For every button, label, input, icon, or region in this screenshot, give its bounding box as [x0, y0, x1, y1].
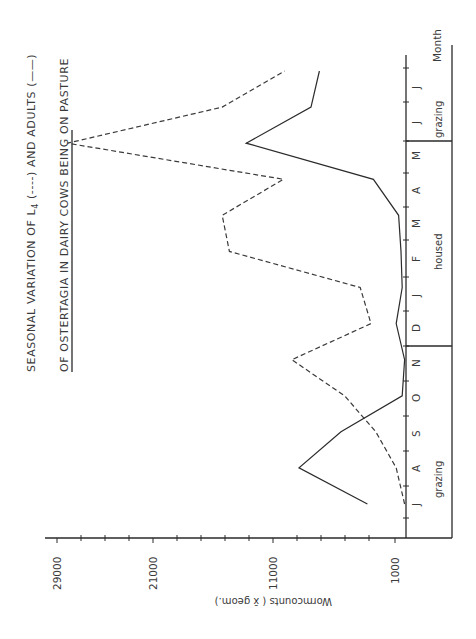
- svg-text:grazing: grazing: [433, 101, 444, 138]
- month-label: D: [410, 324, 422, 332]
- wormcount-chart: SEASONAL VARIATION OF L4 (----) AND ADUL…: [0, 0, 476, 639]
- month-label: J: [410, 294, 422, 298]
- chart-subtitle: OF OSTERTAGIA IN DAIRY COWS BEING ON PAS…: [58, 58, 71, 372]
- month-label: F: [410, 256, 422, 262]
- value-tick-label-11000: 11000: [267, 557, 279, 590]
- svg-text:Month: Month: [431, 29, 443, 62]
- month-label: A: [410, 186, 422, 194]
- value-tick-label-21000: 21000: [147, 557, 159, 590]
- title-line1-rest: (----) AND ADULTS (——): [25, 54, 38, 203]
- value-tick-label-1000: 1000: [389, 557, 401, 584]
- month-label: M: [410, 219, 422, 228]
- svg-text:Wormcounts ( x̄ geom.): Wormcounts ( x̄ geom.): [215, 596, 332, 607]
- series-l4-dashed: [67, 71, 404, 504]
- month-axis-title: Month: [431, 29, 443, 62]
- month-label: O: [410, 394, 422, 402]
- month-label: J: [410, 121, 422, 125]
- phase-label-grazing-2: grazing: [433, 101, 444, 138]
- month-label: M: [410, 151, 422, 160]
- phase-label-grazing-1: grazing: [433, 461, 444, 498]
- svg-text:11000: 11000: [267, 557, 279, 590]
- month-label: S: [410, 430, 422, 437]
- month-label: J: [410, 86, 422, 90]
- title-line2: OF OSTERTAGIA IN DAIRY COWS BEING ON PAS…: [58, 58, 71, 372]
- svg-text:housed: housed: [433, 233, 444, 270]
- series-adults-solid: [246, 71, 404, 504]
- month-label: A: [410, 464, 422, 472]
- phase-label-housed: housed: [433, 233, 444, 270]
- svg-text:1000: 1000: [389, 557, 401, 584]
- value-axis-ticks: [57, 535, 395, 543]
- value-tick-label-29000: 29000: [51, 557, 63, 590]
- value-axis-title: Wormcounts ( x̄ geom.): [215, 596, 332, 607]
- svg-text:29000: 29000: [51, 557, 63, 590]
- month-label: J: [410, 503, 422, 507]
- svg-text:21000: 21000: [147, 557, 159, 590]
- svg-text:SEASONAL VARIATION OF L4 (----: SEASONAL VARIATION OF L4 (----) AND ADUL…: [25, 54, 40, 372]
- svg-text:grazing: grazing: [433, 461, 444, 498]
- month-label: N: [410, 359, 422, 367]
- month-labels: J A S O N D J F M A M J J: [410, 86, 422, 507]
- title-line1: SEASONAL VARIATION OF L: [25, 209, 38, 372]
- chart-title: SEASONAL VARIATION OF L4 (----) AND ADUL…: [25, 54, 40, 372]
